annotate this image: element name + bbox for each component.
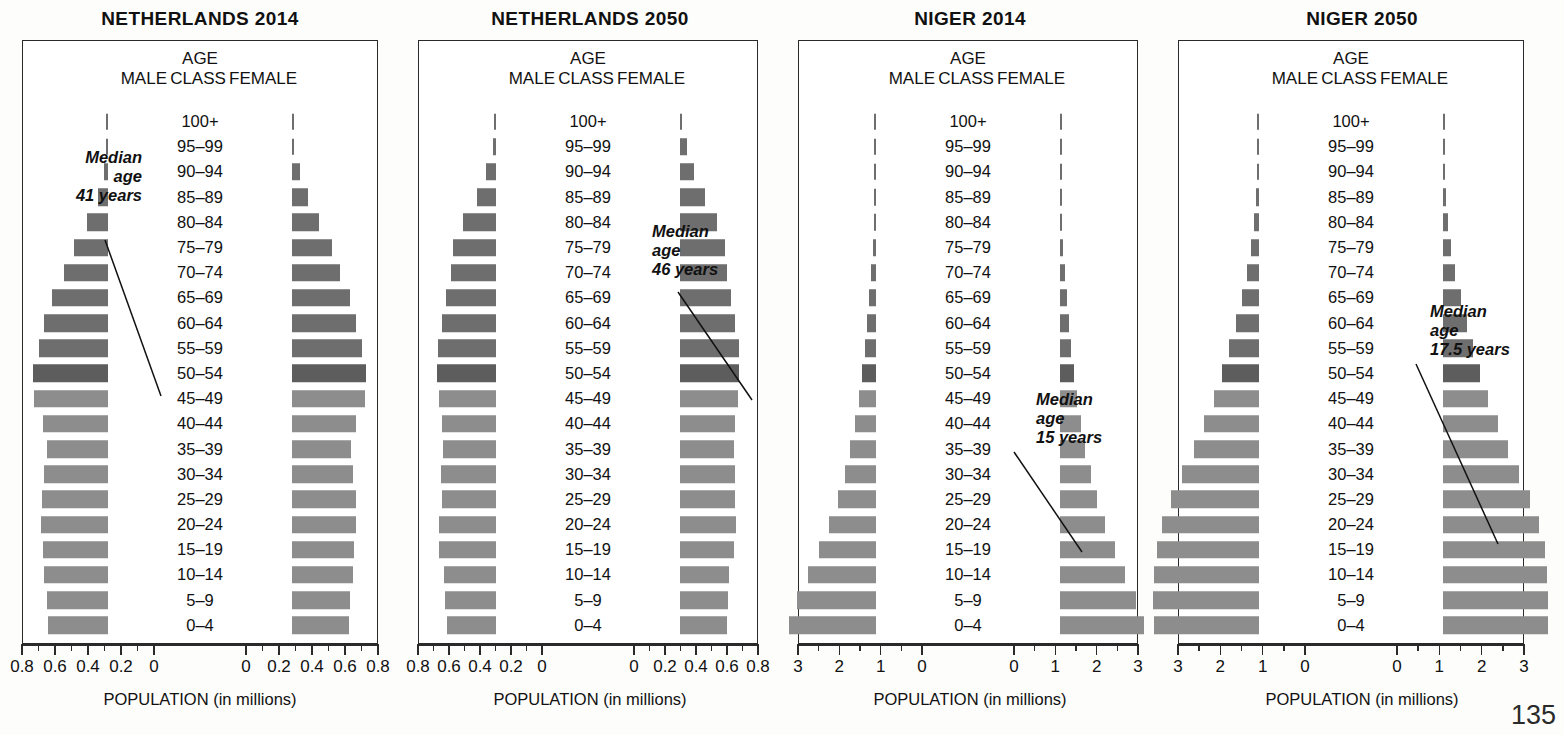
bar-female <box>292 163 300 181</box>
bar-male <box>1162 516 1259 534</box>
column-headers: AGEMALECLASSFEMALE <box>799 49 1137 89</box>
bar-male <box>43 415 108 433</box>
header-female: FEMALE <box>617 69 693 89</box>
male-side <box>798 159 968 184</box>
table-row: 65–69 <box>23 285 377 310</box>
male-side <box>418 134 588 159</box>
female-side <box>588 512 758 537</box>
axis-tick-label: 0 <box>1392 657 1401 677</box>
bar-male <box>48 617 108 635</box>
header-male: MALE <box>863 69 935 89</box>
female-side <box>1351 487 1524 512</box>
male-side <box>418 588 588 613</box>
axis-tick-label: 0.4 <box>300 657 324 677</box>
male-side <box>1178 134 1351 159</box>
bar-female <box>292 188 308 206</box>
table-row: 100+ <box>23 109 377 134</box>
axis-tick <box>377 644 378 655</box>
female-side <box>968 235 1138 260</box>
axis-tick <box>1013 644 1014 655</box>
table-row: 85–89 <box>799 185 1137 210</box>
bar-female <box>680 491 735 509</box>
axis-tick-label: 0.4 <box>76 657 100 677</box>
axis-tick-label: 0.2 <box>653 657 677 677</box>
table-row: 25–29 <box>1179 487 1523 512</box>
axis-tick-label: 0 <box>241 657 250 677</box>
bar-male <box>439 390 496 408</box>
female-side <box>968 588 1138 613</box>
bar-male <box>439 516 496 534</box>
axis-tick <box>1198 644 1199 651</box>
bar-male <box>106 113 108 130</box>
table-row: 0–4 <box>23 613 377 638</box>
bar-female <box>680 163 694 181</box>
table-row: 35–39 <box>419 436 757 461</box>
bar-female <box>1443 139 1445 156</box>
female-side <box>588 159 758 184</box>
bar-male <box>444 566 496 584</box>
bar-male <box>1204 415 1259 433</box>
male-side <box>418 361 588 386</box>
bar-female <box>1443 491 1530 509</box>
bar-male <box>867 314 876 332</box>
bar-male <box>859 390 876 408</box>
female-side <box>588 361 758 386</box>
bar-male <box>446 289 496 307</box>
female-side <box>200 411 378 436</box>
bar-female <box>680 289 731 307</box>
female-side <box>968 462 1138 487</box>
axis-tick-label: 0.8 <box>366 657 390 677</box>
bar-male <box>33 365 108 383</box>
bar-female <box>1060 617 1144 635</box>
header-class: CLASS <box>555 69 617 89</box>
bar-female <box>292 264 340 282</box>
table-row: 5–9 <box>799 588 1137 613</box>
male-side <box>798 336 968 361</box>
bar-female <box>1060 566 1125 584</box>
bar-female <box>1443 440 1508 458</box>
axis-tick-label: 3 <box>1133 657 1142 677</box>
bar-female <box>1443 566 1547 584</box>
male-side <box>798 537 968 562</box>
table-row: 80–84 <box>799 210 1137 235</box>
bar-female <box>1060 264 1065 282</box>
axis-tick <box>245 644 246 655</box>
header-male: MALE <box>483 69 555 89</box>
bar-male <box>494 113 496 130</box>
bar-female <box>1060 365 1074 383</box>
male-side <box>22 109 200 134</box>
x-axis-title: POPULATION (in millions) <box>780 690 1160 709</box>
header-female: FEMALE <box>229 69 305 89</box>
female-side <box>200 613 378 638</box>
bar-male <box>1257 113 1259 130</box>
bar-female <box>1443 264 1455 282</box>
male-side <box>22 588 200 613</box>
axis-tick <box>1220 644 1221 655</box>
bar-male <box>797 591 876 609</box>
female-side <box>1351 361 1524 386</box>
table-row: 75–79 <box>799 235 1137 260</box>
table-row: 100+ <box>799 109 1137 134</box>
bar-female <box>1443 239 1451 257</box>
x-axis-title: POPULATION (in millions) <box>1160 690 1564 709</box>
male-side <box>798 588 968 613</box>
table-row: 15–19 <box>1179 537 1523 562</box>
male-side <box>22 336 200 361</box>
bar-female <box>292 566 353 584</box>
axis-tick <box>21 644 22 655</box>
female-side <box>1351 210 1524 235</box>
bar-male <box>808 566 876 584</box>
male-side <box>798 436 968 461</box>
bar-female <box>292 365 366 383</box>
bar-female <box>292 139 294 156</box>
male-side <box>1178 436 1351 461</box>
male-side <box>798 134 968 159</box>
female-side <box>200 109 378 134</box>
male-side <box>1178 562 1351 587</box>
pyramid-panel: NIGER 2050AGEMALECLASSFEMALE100+95–9990–… <box>1160 0 1564 735</box>
bar-male <box>819 541 876 559</box>
table-row: 30–34 <box>419 462 757 487</box>
bar-male <box>1257 164 1259 181</box>
pyramid-panel: NIGER 2014AGEMALECLASSFEMALE100+95–9990–… <box>780 0 1160 735</box>
pyramid-panel: NETHERLANDS 2050AGEMALECLASSFEMALE100+95… <box>400 0 780 735</box>
